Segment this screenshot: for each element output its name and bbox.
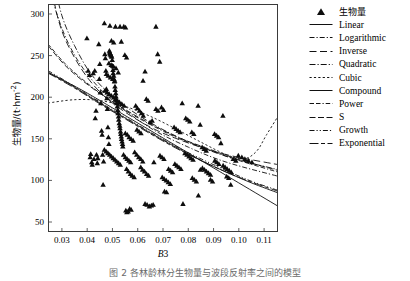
legend-label: Exponential [334, 138, 385, 148]
x-axis-tick-label: 0.06 [130, 236, 146, 245]
line-sample-icon [308, 137, 334, 150]
line-sample-icon [308, 58, 334, 71]
figure-caption: 图 2 各林龄林分生物量与波段反射率之间的模型 [0, 268, 410, 281]
legend-label: S [334, 112, 344, 122]
line-sample-icon [308, 71, 334, 84]
x-axis-tick-label: 0.04 [79, 236, 95, 245]
legend-label: 生物量 [334, 7, 366, 17]
line-sample-icon [308, 31, 334, 44]
x-axis-tick-label: 0.10 [231, 236, 247, 245]
y-axis-tick-label: 100 [31, 176, 45, 185]
legend-item-inverse[interactable]: Inverse [308, 45, 408, 58]
legend-label: Quadratic [334, 59, 376, 69]
triangle-marker-icon [308, 5, 334, 18]
legend-item-compound[interactable]: Compound [308, 84, 408, 97]
x-axis-tick-label: 0.05 [105, 236, 121, 245]
x-axis-tick-label: 0.11 [256, 236, 271, 245]
legend-label: Compound [334, 86, 381, 96]
legend-label: Power [334, 99, 363, 109]
line-sample-icon [308, 111, 334, 124]
plot-frame [48, 4, 278, 232]
line-sample-icon [308, 45, 334, 58]
legend-item-power[interactable]: Power [308, 97, 408, 110]
y-axis-tick-label: 250 [31, 51, 45, 60]
y-axis-title-exponent: -2 [10, 85, 18, 92]
legend-label: Growth [334, 125, 368, 135]
x-axis-tick-label: 0.09 [206, 236, 222, 245]
line-sample-icon [308, 84, 334, 97]
y-axis-tick-label: 150 [31, 134, 45, 143]
legend-item-s[interactable]: S [308, 111, 408, 124]
line-sample-icon [308, 124, 334, 137]
x-axis-tick-label: 0.03 [54, 236, 70, 245]
legend: 生物量LinearLogarithmicInverseQuadraticCubi… [308, 5, 408, 150]
legend-label: Logarithmic [334, 33, 386, 43]
legend-label: Inverse [334, 46, 367, 56]
y-axis-tick-label: 50 [35, 218, 44, 227]
legend-item-quadratic[interactable]: Quadratic [308, 58, 408, 71]
y-axis-tick-label: 200 [31, 93, 45, 102]
x-axis-tick-label: 0.08 [180, 236, 196, 245]
x-axis-title: B3 [48, 249, 278, 259]
y-axis-title-tail: ) [12, 82, 22, 86]
x-axis-title-plain: 3 [164, 249, 169, 259]
y-axis-title-text: 生物量/(t·hm [12, 92, 22, 146]
triangle-glyph [317, 8, 325, 15]
x-axis-tick-labels: 0.030.040.050.060.070.080.090.100.11 [48, 236, 278, 248]
plot-area [48, 4, 278, 232]
y-axis-title: 生物量/(t·hm-2) [10, 54, 22, 174]
x-axis-tick-label: 0.07 [155, 236, 171, 245]
line-sample-icon [308, 18, 334, 31]
legend-item-cubic[interactable]: Cubic [308, 71, 408, 84]
figure-root: 50100150200250300 生物量/(t·hm-2) 0.030.040… [0, 0, 410, 281]
legend-label: Linear [334, 20, 364, 30]
legend-item-生物量[interactable]: 生物量 [308, 5, 408, 18]
line-sample-icon [308, 97, 334, 110]
legend-item-logarithmic[interactable]: Logarithmic [308, 31, 408, 44]
legend-item-growth[interactable]: Growth [308, 124, 408, 137]
legend-label: Cubic [334, 73, 362, 83]
legend-item-linear[interactable]: Linear [308, 18, 408, 31]
y-axis-tick-label: 300 [31, 9, 45, 18]
legend-item-exponential[interactable]: Exponential [308, 137, 408, 150]
